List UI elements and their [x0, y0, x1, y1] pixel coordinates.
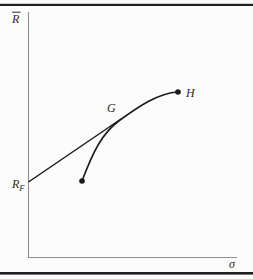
tangent-line	[29, 119, 122, 182]
y-axis-label: R	[11, 12, 20, 26]
efficient-frontier-figure: R σ RF G H	[0, 0, 253, 279]
rf-label: RF	[11, 177, 25, 193]
xy-axes	[29, 12, 238, 258]
point-g-label: G	[107, 101, 116, 115]
x-axis-label: σ	[229, 257, 236, 271]
top-rule-line	[0, 4, 253, 6]
point-h-label: H	[185, 86, 196, 100]
bottom-rule-line	[0, 272, 253, 275]
point-h-dot	[175, 89, 181, 95]
rf-label-subscript: F	[18, 183, 25, 193]
curve-start-dot	[79, 178, 85, 184]
figure-canvas: R σ RF G H	[0, 0, 253, 279]
